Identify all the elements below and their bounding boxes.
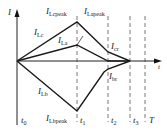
t1-label: t1 [80,116,86,126]
t3-label: t3 [133,116,139,126]
icr-label: Icr [111,42,119,52]
ilbpeak-label: ILbpeak [46,114,67,124]
ilc-label: ILc [34,28,43,38]
ibr-label: Ibr [109,72,117,82]
waveform-diagram [0,0,167,132]
ila-label: ILa [58,36,67,46]
t2-label: t2 [111,116,117,126]
ilb-curve [17,61,130,111]
y-axis-arrow-icon [15,9,20,17]
ilcpeak-label: ILcpeak [46,7,67,17]
ilapeak-leader-line [77,36,83,45]
ilapeak-label: ILapeak [84,7,105,17]
T-label: T [149,116,154,125]
t0-label: t0 [21,116,27,126]
ilb-label: ILb [38,87,48,97]
y-axis-label: I [8,8,11,17]
x-axis-label: t [158,64,160,71]
